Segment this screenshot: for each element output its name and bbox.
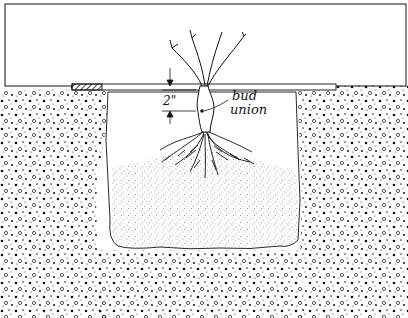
depth-label: 2" (162, 94, 176, 108)
background-frame (5, 4, 406, 86)
ground-soil-left (0, 86, 108, 318)
rose-canes (170, 30, 246, 86)
planting-diagram: 2" bud union (0, 0, 408, 318)
ground-soil-right (298, 85, 408, 318)
bud-union-label-line2: union (230, 102, 267, 117)
ground-soil-bottom (96, 250, 305, 318)
level-board-end-hatch (72, 84, 102, 90)
bud-union-mark (200, 109, 204, 113)
bud-union-label-line1: bud (232, 88, 257, 103)
